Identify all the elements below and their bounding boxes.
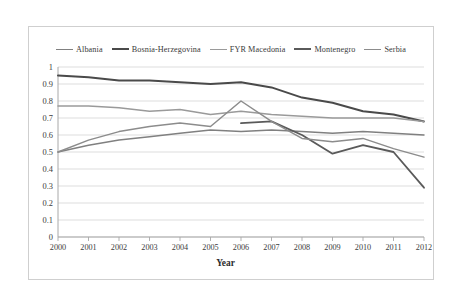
axis-lines	[58, 67, 424, 241]
y-axis-tick-label: 0.2	[27, 199, 53, 208]
x-axis-tick-label: 2008	[285, 243, 319, 252]
x-axis-tick-label: 2003	[133, 243, 167, 252]
series-line-serbia	[58, 101, 424, 157]
x-axis-tick-label: 2000	[41, 243, 75, 252]
x-axis-tick-label: 2006	[224, 243, 258, 252]
y-axis-tick-label: 0.3	[27, 182, 53, 191]
series-line-montenegro	[241, 121, 424, 187]
y-axis-tick-label: 0.9	[27, 80, 53, 89]
x-axis-tick-label: 2009	[316, 243, 350, 252]
y-axis-tick-label: 0.7	[27, 114, 53, 123]
y-axis-tick-label: 0.5	[27, 148, 53, 157]
y-axis-tick-label: 0.1	[27, 216, 53, 225]
series-line-bosnia-herzegovina	[58, 76, 424, 122]
x-axis-title: Year	[0, 258, 451, 268]
y-axis-tick-label: 0.8	[27, 97, 53, 106]
y-axis-tick-label: 0	[27, 233, 53, 242]
x-axis-tick-label: 2001	[72, 243, 106, 252]
x-axis-tick-label: 2005	[194, 243, 228, 252]
x-axis-tick-label: 2007	[255, 243, 289, 252]
y-axis-tick-label: 0.4	[27, 165, 53, 174]
x-axis-tick-label: 2004	[163, 243, 197, 252]
x-axis-tick-label: 2011	[377, 243, 411, 252]
x-axis-tick-label: 2012	[407, 243, 441, 252]
x-axis-tick-label: 2002	[102, 243, 136, 252]
y-axis-tick-label: 0.6	[27, 131, 53, 140]
y-axis-tick-label: 1	[27, 63, 53, 72]
gridlines	[58, 67, 424, 237]
series-line-fyr-macedonia	[58, 106, 424, 121]
x-axis-tick-label: 2010	[346, 243, 380, 252]
